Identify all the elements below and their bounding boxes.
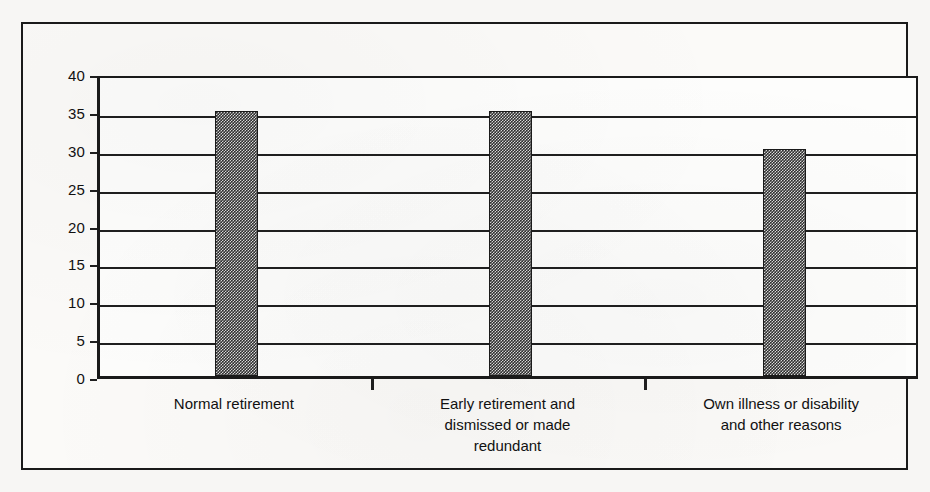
x-axis-category-label-line: dismissed or made (371, 414, 645, 435)
x-axis-category-label: Normal retirement (97, 393, 371, 414)
x-axis-category-label-line: redundant (371, 435, 645, 456)
y-axis-tick-15 (90, 265, 97, 267)
y-axis-tick-30 (90, 152, 97, 154)
x-axis-category-tick (371, 379, 374, 390)
plot-area (97, 76, 918, 379)
x-axis-category-label-line: Own illness or disability (644, 393, 918, 414)
y-axis-tick-35 (90, 114, 97, 116)
bar-2 (489, 111, 532, 376)
x-axis-category-label-line: and other reasons (644, 414, 918, 435)
x-axis-category-tick (644, 379, 647, 390)
y-axis-tick-label: 20 (37, 220, 85, 235)
y-axis-tick-label: 10 (37, 295, 85, 310)
bar-1 (215, 111, 258, 376)
y-axis-tick-25 (90, 190, 97, 192)
y-axis-tick-40 (90, 76, 97, 78)
y-axis-tick-0 (90, 379, 97, 381)
x-axis-category-label-line: Normal retirement (97, 393, 371, 414)
y-axis-tick-5 (90, 341, 97, 343)
chart-figure-frame: 0510152025303540 Normal retirementEarly … (21, 22, 908, 470)
y-axis-tick-label: 25 (37, 182, 85, 197)
x-axis-category-label: Own illness or disabilityand other reaso… (644, 393, 918, 435)
y-axis-tick-20 (90, 228, 97, 230)
y-axis-tick-label: 5 (37, 333, 85, 348)
y-axis-tick-label: 40 (37, 68, 85, 83)
bar-3 (763, 149, 806, 376)
y-axis-tick-10 (90, 303, 97, 305)
y-axis-tick-label: 0 (37, 371, 85, 386)
y-axis-tick-label: 30 (37, 144, 85, 159)
y-axis-tick-label: 35 (37, 106, 85, 121)
x-axis-category-label: Early retirement anddismissed or madered… (371, 393, 645, 456)
y-axis-tick-label: 15 (37, 257, 85, 272)
x-axis-category-label-line: Early retirement and (371, 393, 645, 414)
